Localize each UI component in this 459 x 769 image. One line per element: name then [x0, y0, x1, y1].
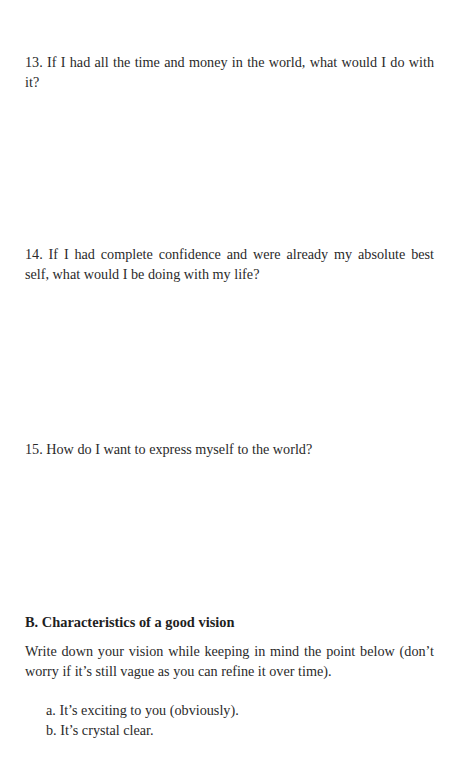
characteristics-list: a. It’s exciting to you (obviously). b. … [46, 701, 434, 740]
question-number: 14. [25, 246, 43, 262]
question-text: If I had complete confidence and were al… [25, 246, 434, 282]
question-text: If I had all the time and money in the w… [25, 54, 434, 90]
question-15: 15. How do I want to express myself to t… [25, 440, 434, 460]
question-13: 13. If I had all the time and money in t… [25, 53, 434, 92]
question-text: How do I want to express myself to the w… [46, 441, 312, 457]
question-number: 15. [25, 441, 43, 457]
question-number: 13. [25, 54, 43, 70]
list-item: a. It’s exciting to you (obviously). [46, 701, 434, 721]
document-page: 13. If I had all the time and money in t… [25, 0, 434, 769]
section-b-heading: B. Characteristics of a good vision [25, 613, 434, 633]
list-item-text: It’s crystal clear. [60, 722, 153, 738]
list-marker: a. [46, 702, 56, 718]
list-item: b. It’s crystal clear. [46, 721, 434, 741]
list-marker: b. [46, 722, 57, 738]
list-item-text: It’s exciting to you (obviously). [59, 702, 238, 718]
section-b-paragraph: Write down your vision while keeping in … [25, 642, 434, 681]
question-14: 14. If I had complete confidence and wer… [25, 245, 434, 284]
